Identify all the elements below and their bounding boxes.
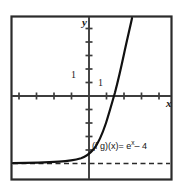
x-tick-label-1: 1 [98,78,103,88]
equation-prefix: (f g)(x)= e [92,141,131,151]
equation-annotation: (f g)(x)= ex– 4 [92,142,147,152]
graph-canvas [0,0,183,193]
plot-frame [12,17,172,180]
equation-suffix: – 4 [135,141,148,151]
y-axis-label: y [82,17,87,28]
y-tick-label-1: 1 [71,70,76,80]
x-axis-label: x [166,98,172,109]
function-graph-figure: y x 1 1 (f g)(x)= ex– 4 [0,0,183,193]
